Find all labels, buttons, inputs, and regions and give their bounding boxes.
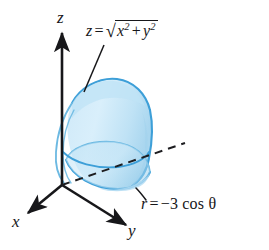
radical-sign: √ <box>106 22 116 40</box>
y-axis-label: y <box>128 222 136 239</box>
radicand-exponent-1: 2 <box>124 21 129 32</box>
figure-canvas: x y z z=√x2+y2 r=−3 cos θ <box>0 0 269 250</box>
solid-region <box>56 79 152 191</box>
cone-equation-equals: = <box>92 22 105 39</box>
x-axis <box>28 185 62 213</box>
radicand-exponent-2: 2 <box>150 21 155 32</box>
radicand-plus: + <box>130 22 143 39</box>
x-axis-label: x <box>12 213 20 230</box>
cylinder-equation-equals: = <box>147 195 160 212</box>
radicand: x2+y2 <box>115 20 158 39</box>
z-axis-label: z <box>57 9 64 26</box>
cone-equation-label: z=√x2+y2 <box>86 20 158 40</box>
cylinder-equation-label: r=−3 cos θ <box>141 196 216 212</box>
cylinder-equation-rhs: −3 cos θ <box>161 195 217 212</box>
radical-expression: √x2+y2 <box>106 20 158 40</box>
